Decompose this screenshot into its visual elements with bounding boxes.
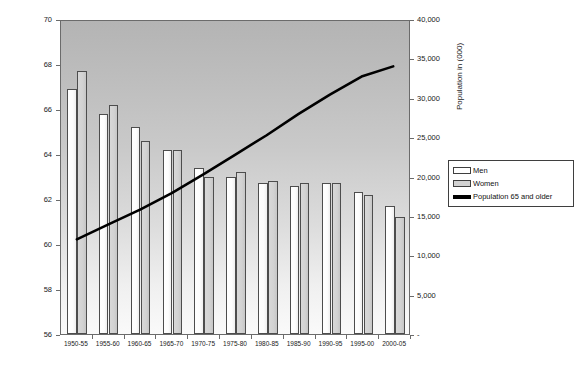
- bar-men: [67, 89, 77, 334]
- bar-men: [258, 183, 268, 334]
- x-axis-tick-mark: [315, 335, 316, 339]
- y-axis-right-tick-label: -: [417, 331, 461, 339]
- y-axis-right-tick-mark: [410, 217, 414, 218]
- legend-item-population: Population 65 and older: [453, 190, 570, 203]
- bar-men: [354, 192, 364, 334]
- bar-men: [194, 168, 204, 335]
- x-axis-tick-mark: [410, 335, 411, 339]
- y-axis-right-tick-label: 40,000: [417, 16, 461, 24]
- bar-men: [290, 186, 300, 335]
- y-axis-right-tick-mark: [410, 256, 414, 257]
- legend-label-men: Men: [473, 166, 488, 175]
- bar-men: [226, 177, 236, 335]
- bar-women: [141, 141, 151, 335]
- y-axis-right-tick-mark: [410, 20, 414, 21]
- bar-women: [77, 71, 87, 334]
- y-axis-right-tick-mark: [410, 138, 414, 139]
- legend-label-population: Population 65 and older: [473, 192, 552, 201]
- bar-women: [332, 183, 342, 334]
- x-axis-tick-mark: [124, 335, 125, 339]
- x-axis-tick-label: 2000-05: [372, 341, 416, 348]
- bar-women: [204, 177, 214, 335]
- bar-women: [236, 172, 246, 334]
- bar-men: [322, 183, 332, 334]
- plot-area: [60, 20, 410, 335]
- y-axis-left-tick-label: 68: [18, 61, 52, 69]
- x-axis-tick-mark: [155, 335, 156, 339]
- y-axis-right-tick-mark: [410, 296, 414, 297]
- bar-women: [364, 195, 374, 335]
- bar-women: [300, 183, 310, 334]
- y-axis-right-tick-label: 25,000: [417, 134, 461, 142]
- y-axis-right-tick-label: 5,000: [417, 292, 461, 300]
- y-axis-left-tick-label: 70: [18, 16, 52, 24]
- bar-women: [173, 150, 183, 335]
- y-axis-left-tick-label: 58: [18, 286, 52, 294]
- legend-swatch-line-icon: [453, 195, 471, 199]
- bar-men: [385, 206, 395, 334]
- y-axis-right-tick-label: 15,000: [417, 213, 461, 221]
- chart-legend: Men Women Population 65 and older: [448, 160, 574, 207]
- y-axis-right-tick-mark: [410, 178, 414, 179]
- y-axis-right-tick-label: 35,000: [417, 55, 461, 63]
- legend-item-men: Men: [453, 164, 570, 177]
- y-axis-left-tick-label: 64: [18, 151, 52, 159]
- legend-label-women: Women: [473, 179, 499, 188]
- legend-swatch-men-icon: [453, 167, 471, 174]
- bar-women: [395, 217, 405, 334]
- y-axis-left-tick-label: 56: [18, 331, 52, 339]
- x-axis-tick-mark: [378, 335, 379, 339]
- x-axis-tick-mark: [251, 335, 252, 339]
- bar-men: [131, 127, 141, 334]
- y-axis-right-tick-mark: [410, 99, 414, 100]
- y-axis-right-tick-label: 30,000: [417, 95, 461, 103]
- x-axis-tick-mark: [92, 335, 93, 339]
- bar-women: [109, 105, 119, 335]
- bar-women: [268, 181, 278, 334]
- y-axis-left-tick-label: 62: [18, 196, 52, 204]
- chart-container: Age Population in (000) 5658606264666870…: [0, 0, 577, 370]
- legend-item-women: Women: [453, 177, 570, 190]
- x-axis-tick-mark: [346, 335, 347, 339]
- y-axis-right-tick-label: 10,000: [417, 252, 461, 260]
- y-axis-right-tick-mark: [410, 59, 414, 60]
- y-axis-left-tick-mark: [56, 335, 60, 336]
- bar-men: [99, 114, 109, 335]
- y-axis-left-tick-label: 60: [18, 241, 52, 249]
- x-axis-tick-mark: [219, 335, 220, 339]
- y-axis-left-tick-label: 66: [18, 106, 52, 114]
- bar-men: [163, 150, 173, 335]
- legend-swatch-women-icon: [453, 180, 471, 187]
- x-axis-tick-mark: [187, 335, 188, 339]
- x-axis-tick-mark: [283, 335, 284, 339]
